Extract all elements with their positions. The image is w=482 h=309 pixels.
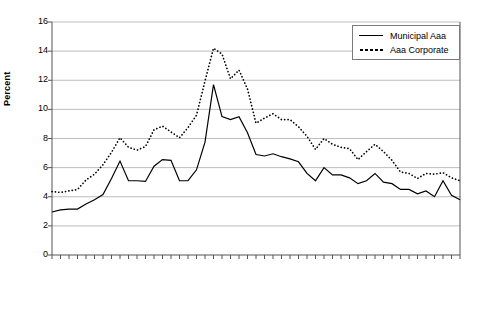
yield-line-chart: Percent 0246810121416 196219641966196819… bbox=[0, 0, 482, 309]
series-line-municipal-aaa bbox=[52, 85, 460, 212]
y-axis-tick-marks bbox=[48, 22, 52, 255]
legend-item-aaa-corporate: Aaa Corporate bbox=[358, 43, 454, 57]
series-line-aaa-corporate bbox=[52, 48, 460, 192]
legend: Municipal Aaa Aaa Corporate bbox=[352, 25, 460, 60]
legend-label-aaa-corporate: Aaa Corporate bbox=[390, 46, 449, 55]
legend-item-municipal-aaa: Municipal Aaa bbox=[358, 29, 454, 43]
solid-line-swatch-icon bbox=[358, 30, 384, 42]
x-axis-tick-labels: 1962196419661968197019721974197619781980… bbox=[0, 258, 482, 309]
dotted-line-swatch-icon bbox=[358, 44, 384, 56]
legend-label-municipal-aaa: Municipal Aaa bbox=[390, 32, 446, 41]
